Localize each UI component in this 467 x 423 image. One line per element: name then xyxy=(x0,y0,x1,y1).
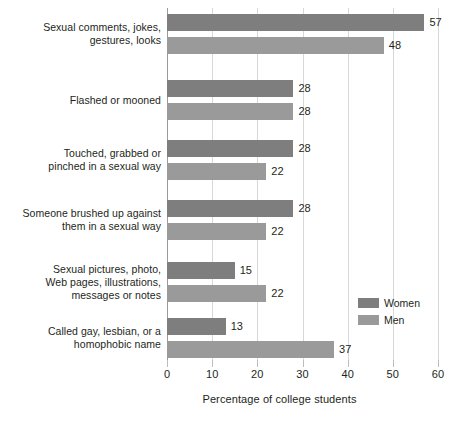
x-tick-0 xyxy=(167,360,168,367)
x-tick-60 xyxy=(438,360,439,367)
bar-men-5 xyxy=(167,341,334,358)
bar-women-2 xyxy=(167,140,293,157)
gridline-40 xyxy=(348,8,349,360)
bar-men-0 xyxy=(167,37,384,54)
category-label-line: Sexual pictures, photo, xyxy=(1,263,161,276)
category-axis-labels: Sexual comments, jokes,gestures, looksFl… xyxy=(0,0,161,423)
bar-value-men-4: 22 xyxy=(271,285,283,302)
bar-value-women-5: 13 xyxy=(231,318,243,335)
x-tick-label-50: 50 xyxy=(373,368,413,380)
category-label-0: Sexual comments, jokes,gestures, looks xyxy=(1,21,161,47)
bar-value-men-5: 37 xyxy=(339,341,351,358)
category-label-line: homophobic name xyxy=(1,338,161,351)
category-label-line: Web pages, illustrations, xyxy=(1,276,161,289)
x-tick-label-60: 60 xyxy=(418,368,458,380)
x-axis-title: Percentage of college students xyxy=(0,393,467,405)
category-label-line: Someone brushed up against xyxy=(1,207,161,220)
x-tick-50 xyxy=(393,360,394,367)
category-label-line: Touched, grabbed or xyxy=(1,147,161,160)
gridline-30 xyxy=(303,8,304,360)
category-label-4: Sexual pictures, photo,Web pages, illust… xyxy=(1,263,161,302)
x-tick-label-20: 20 xyxy=(237,368,277,380)
category-label-line: Sexual comments, jokes, xyxy=(1,21,161,34)
bar-value-men-3: 22 xyxy=(271,223,283,240)
legend-swatch-women-icon xyxy=(358,298,379,308)
bar-women-4 xyxy=(167,262,235,279)
bar-men-3 xyxy=(167,223,266,240)
bar-women-3 xyxy=(167,200,293,217)
bar-chart: Sexual comments, jokes,gestures, looksFl… xyxy=(0,0,467,423)
bar-men-4 xyxy=(167,285,266,302)
category-label-2: Touched, grabbed orpinched in a sexual w… xyxy=(1,147,161,173)
bar-value-women-3: 28 xyxy=(298,200,310,217)
category-label-line: Called gay, lesbian, or a xyxy=(1,325,161,338)
x-tick-label-40: 40 xyxy=(328,368,368,380)
category-label-line: them in a sexual way xyxy=(1,220,161,233)
x-tick-label-30: 30 xyxy=(283,368,323,380)
x-tick-label-0: 0 xyxy=(147,368,187,380)
bar-value-women-2: 28 xyxy=(298,140,310,157)
category-label-3: Someone brushed up againstthem in a sexu… xyxy=(1,207,161,233)
bar-value-men-2: 22 xyxy=(271,163,283,180)
bar-women-0 xyxy=(167,14,424,31)
bar-men-2 xyxy=(167,163,266,180)
bar-value-men-1: 28 xyxy=(298,103,310,120)
bar-women-1 xyxy=(167,80,293,97)
gridline-0 xyxy=(167,8,168,360)
x-tick-20 xyxy=(257,360,258,367)
legend: Women Men xyxy=(358,296,420,330)
bar-value-women-1: 28 xyxy=(298,80,310,97)
category-label-line: gestures, looks xyxy=(1,34,161,47)
x-tick-label-10: 10 xyxy=(192,368,232,380)
gridline-60 xyxy=(438,8,439,360)
bar-value-men-0: 48 xyxy=(389,37,401,54)
x-tick-10 xyxy=(212,360,213,367)
legend-swatch-men-icon xyxy=(358,315,379,325)
x-tick-40 xyxy=(348,360,349,367)
legend-label-women: Women xyxy=(384,297,420,309)
category-label-1: Flashed or mooned xyxy=(1,94,161,107)
category-label-line: messages or notes xyxy=(1,289,161,302)
x-tick-30 xyxy=(303,360,304,367)
legend-item-women[interactable]: Women xyxy=(358,296,420,310)
bar-value-women-4: 15 xyxy=(240,262,252,279)
bar-women-5 xyxy=(167,318,226,335)
category-label-5: Called gay, lesbian, or ahomophobic name xyxy=(1,325,161,351)
bar-value-women-0: 57 xyxy=(429,14,441,31)
legend-item-men[interactable]: Men xyxy=(358,313,420,327)
x-axis-title-text: Percentage of college students xyxy=(110,393,356,405)
gridline-10 xyxy=(212,8,213,360)
bar-men-1 xyxy=(167,103,293,120)
legend-label-men: Men xyxy=(384,314,404,326)
category-label-line: pinched in a sexual way xyxy=(1,160,161,173)
gridline-20 xyxy=(257,8,258,360)
category-label-line: Flashed or mooned xyxy=(1,94,161,107)
